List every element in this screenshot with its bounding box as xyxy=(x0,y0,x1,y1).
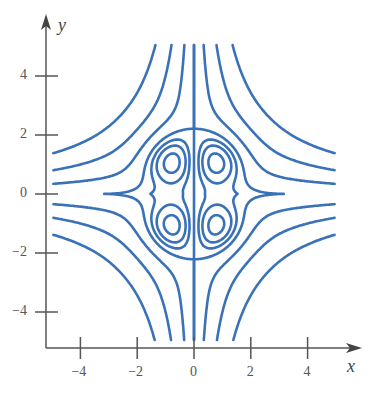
y-tick-label: 4 xyxy=(20,67,27,83)
contour-plot xyxy=(0,0,382,415)
contour-lines xyxy=(53,45,334,340)
y-tick-label: −4 xyxy=(12,303,27,319)
y-tick-label: −2 xyxy=(12,244,27,260)
x-tick-label: 0 xyxy=(190,364,197,380)
x-axis-label: x xyxy=(347,356,355,377)
y-tick-label: 2 xyxy=(20,126,27,142)
x-tick-label: −4 xyxy=(71,364,86,380)
y-tick-label: 0 xyxy=(20,185,27,201)
x-tick-label: −2 xyxy=(128,364,143,380)
x-tick-label: 2 xyxy=(247,364,254,380)
y-axis-label: y xyxy=(58,15,66,36)
x-tick-label: 4 xyxy=(304,364,311,380)
